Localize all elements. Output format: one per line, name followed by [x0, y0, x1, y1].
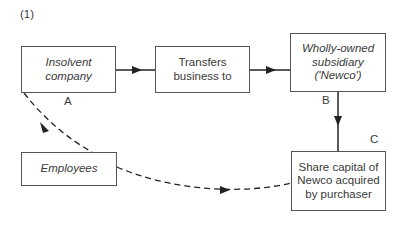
node-newco: Wholly-owned subsidiary ('Newco') [290, 33, 386, 92]
node-share-capital: Share capital of Newco acquired by purch… [291, 151, 386, 211]
node-transfers-business-label: Transfers business to [173, 56, 231, 83]
node-employees: Employees [21, 152, 117, 186]
node-newco-label: Wholly-owned subsidiary ('Newco') [302, 42, 374, 83]
node-insolvent-company-label: Insolvent company [45, 56, 92, 83]
node-insolvent-company: Insolvent company [21, 46, 116, 93]
node-share-capital-label: Share capital of Newco acquired by purch… [297, 161, 379, 202]
node-transfers-business: Transfers business to [155, 46, 250, 93]
arrow-transfers-to-newco [250, 66, 290, 74]
node-employees-label: Employees [41, 162, 98, 176]
arrow-insolvent-to-transfers [116, 66, 155, 74]
point-label-b: B [322, 94, 330, 106]
arrow-newco-to-share-capital [334, 92, 342, 151]
diagram-canvas: (1) Insolvent company Transfers business… [0, 0, 407, 232]
point-label-a: A [64, 95, 72, 107]
point-label-c: C [370, 133, 378, 145]
figure-number: (1) [20, 8, 34, 20]
